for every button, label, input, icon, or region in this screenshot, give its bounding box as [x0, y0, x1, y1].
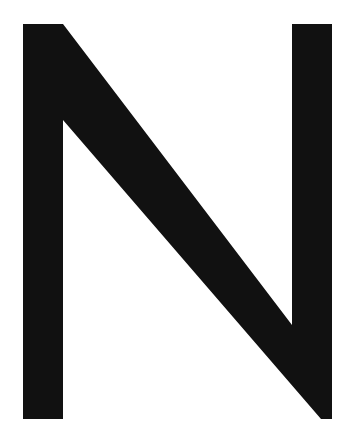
letter-n-shape [23, 24, 332, 419]
letter-n-glyph: N [0, 0, 353, 446]
